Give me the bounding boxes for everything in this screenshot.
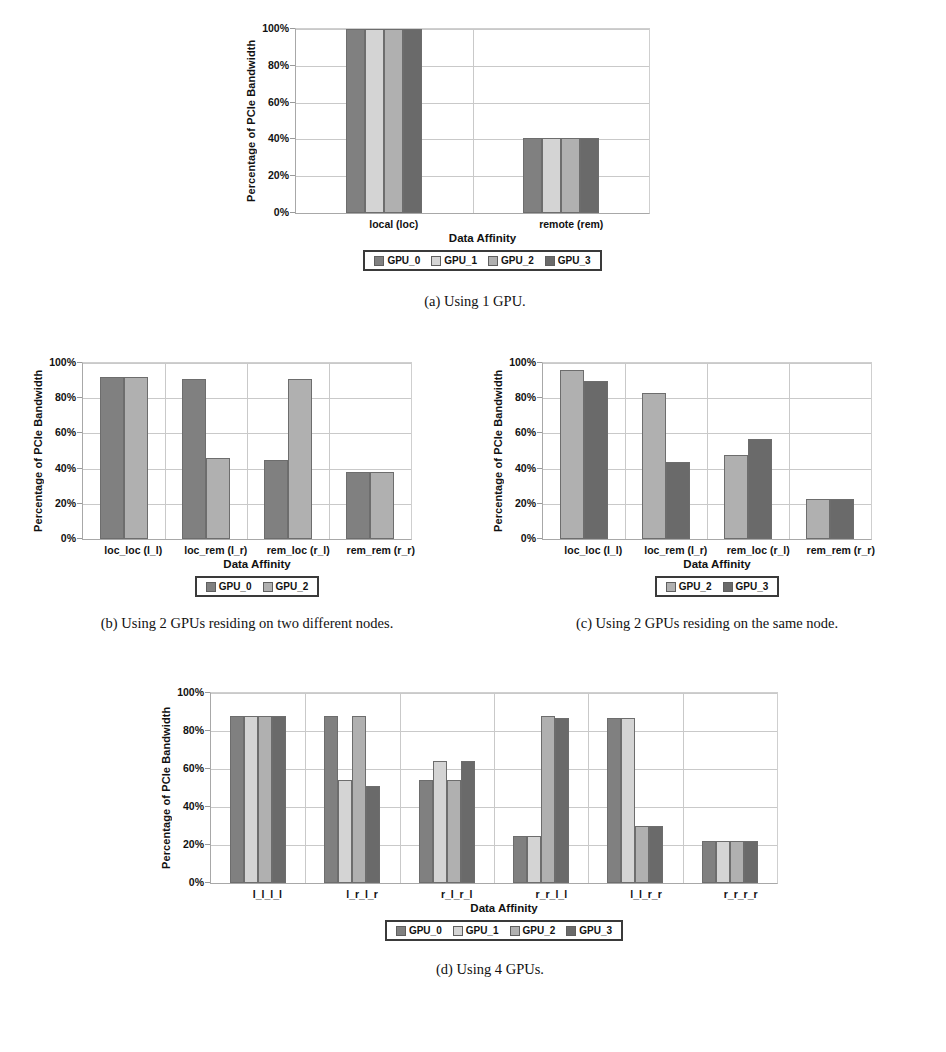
bar-gpu_1 [621, 718, 635, 883]
x-tick-label: rem_loc (r_l) [717, 540, 800, 556]
legend-label: GPU_0 [387, 255, 420, 266]
legend-label: GPU_2 [679, 581, 712, 592]
legend-item-gpu_0[interactable]: GPU_0 [374, 255, 420, 266]
legend-swatch-icon [263, 582, 273, 592]
legend-item-gpu_2[interactable]: GPU_2 [510, 925, 556, 936]
bar-gpu_0 [523, 138, 542, 213]
y-tick-label: 100% [509, 356, 536, 368]
legend-swatch-icon [545, 256, 555, 266]
bar-group [83, 363, 165, 539]
x-tick-label: loc_loc (l_l) [552, 540, 635, 556]
y-axis-ticks-a: 100%80%60%40%20%0% [257, 28, 295, 214]
y-tick-label: 20% [515, 497, 536, 509]
x-tick-label: l_l_r_r [599, 884, 694, 900]
x-tick-label: l_l_l_l [220, 884, 315, 900]
bar-gpu_0 [346, 472, 370, 539]
legend-label: GPU_2 [523, 925, 556, 936]
legend-item-gpu_0[interactable]: GPU_0 [396, 925, 442, 936]
bar-gpu_2 [560, 370, 584, 539]
bar-gpu_1 [716, 841, 730, 883]
legend-item-gpu_2[interactable]: GPU_2 [488, 255, 534, 266]
bar-gpu_3 [744, 841, 758, 883]
legend-item-gpu_0[interactable]: GPU_0 [206, 581, 252, 592]
bar-gpu_0 [264, 460, 288, 539]
legend-item-gpu_1[interactable]: GPU_1 [431, 255, 477, 266]
bar-gpu_3 [580, 138, 599, 213]
y-tick-label: 60% [515, 426, 536, 438]
bar-gpu_3 [748, 439, 772, 539]
bar-gpu_2 [370, 472, 394, 539]
x-axis-title-c: Data Affinity [552, 558, 882, 570]
y-tick-label: 100% [262, 22, 289, 34]
bar-group [588, 693, 682, 883]
bar-group [296, 29, 473, 213]
bar-gpu_3 [403, 29, 422, 213]
legend-swatch-icon [666, 582, 676, 592]
y-tick-label: 40% [268, 132, 289, 144]
y-axis-ticks-d: 100%80%60%40%20%0% [172, 692, 210, 884]
bar-gpu_2 [541, 716, 555, 883]
x-axis-labels-c: loc_loc (l_l)loc_rem (l_r)rem_loc (r_l)r… [552, 540, 882, 556]
legend-swatch-icon [566, 926, 576, 936]
legend-swatch-icon [453, 926, 463, 936]
legend-c: GPU_2GPU_3 [655, 576, 780, 597]
bar-group [543, 363, 625, 539]
bar-gpu_3 [649, 826, 663, 883]
bar-gpu_3 [461, 761, 475, 883]
legend-item-gpu_2[interactable]: GPU_2 [666, 581, 712, 592]
legend-item-gpu_3[interactable]: GPU_3 [545, 255, 591, 266]
x-tick-label: rem_rem (r_r) [800, 540, 883, 556]
bar-gpu_0 [702, 841, 716, 883]
bar-gpu_1 [365, 29, 384, 213]
caption-b: (b) Using 2 GPUs residing on two differe… [32, 615, 462, 632]
legend-a: GPU_0GPU_1GPU_2GPU_3 [363, 250, 601, 271]
legend-swatch-icon [510, 926, 520, 936]
bar-gpu_2 [561, 138, 580, 213]
legend-item-gpu_3[interactable]: GPU_3 [723, 581, 769, 592]
bar-gpu_2 [806, 499, 830, 539]
y-tick-label: 0% [521, 532, 536, 544]
bar-group [473, 29, 650, 213]
bar-group [165, 363, 247, 539]
x-tick-label: rem_loc (r_l) [257, 540, 340, 556]
y-axis-ticks-c: 100%80%60%40%20%0% [504, 362, 542, 540]
bar-group [247, 363, 329, 539]
x-axis-title-d: Data Affinity [220, 902, 788, 914]
y-tick-label: 20% [183, 838, 204, 850]
chart-c: Percentage of PCIe Bandwidth 100%80%60%4… [492, 362, 922, 632]
y-tick-label: 20% [55, 497, 76, 509]
chart-d: Percentage of PCIe Bandwidth 100%80%60%4… [160, 692, 820, 978]
x-tick-label: loc_rem (l_r) [635, 540, 718, 556]
bar-gpu_0 [324, 716, 338, 883]
bar-groups [83, 363, 411, 539]
bar-gpu_1 [542, 138, 561, 213]
bar-gpu_1 [338, 780, 352, 883]
y-tick-label: 0% [61, 532, 76, 544]
y-tick-label: 80% [183, 724, 204, 736]
bar-gpu_3 [555, 718, 569, 883]
legend-label: GPU_0 [409, 925, 442, 936]
caption-a: (a) Using 1 GPU. [245, 293, 705, 310]
bar-gpu_1 [433, 761, 447, 883]
bar-group [305, 693, 399, 883]
y-axis-title-d: Percentage of PCIe Bandwidth [160, 692, 172, 884]
legend-swatch-icon [396, 926, 406, 936]
bar-group [683, 693, 777, 883]
bar-gpu_2 [258, 716, 272, 883]
y-tick-label: 40% [515, 462, 536, 474]
legend-label: GPU_1 [466, 925, 499, 936]
y-tick-label: 60% [183, 762, 204, 774]
bar-gpu_0 [346, 29, 365, 213]
legend-item-gpu_2[interactable]: GPU_2 [263, 581, 309, 592]
legend-item-gpu_3[interactable]: GPU_3 [566, 925, 612, 936]
legend-label: GPU_3 [558, 255, 591, 266]
legend-label: GPU_1 [444, 255, 477, 266]
caption-c: (c) Using 2 GPUs residing on the same no… [492, 615, 922, 632]
bar-gpu_2 [724, 455, 748, 539]
figure-page: Percentage of PCIe Bandwidth 100%80%60%4… [0, 0, 946, 1052]
plot-area-a [295, 28, 650, 214]
legend-item-gpu_1[interactable]: GPU_1 [453, 925, 499, 936]
x-axis-labels-a: local (loc)remote (rem) [305, 214, 660, 230]
legend-label: GPU_3 [736, 581, 769, 592]
bar-gpu_2 [352, 716, 366, 883]
